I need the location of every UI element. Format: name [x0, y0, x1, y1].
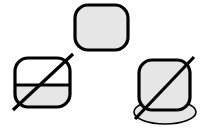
shape-rounded-rectangle-top [75, 5, 128, 50]
shape-lower-half-fill [15, 85, 70, 107]
shape-diagram [0, 0, 205, 131]
diagram-canvas [0, 0, 205, 131]
